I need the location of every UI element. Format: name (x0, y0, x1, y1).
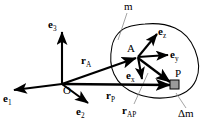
label-r-ap: rAP (122, 105, 136, 116)
vector-ey (138, 55, 168, 57)
leader-body-mass (118, 13, 127, 40)
leader-element-mass (176, 93, 186, 108)
body-outline (111, 24, 199, 98)
vector-r-p (62, 84, 170, 85)
label-e3: e3 (48, 19, 57, 30)
label-e1: e1 (3, 93, 12, 104)
label-element-mass: Δm (178, 108, 194, 119)
label-point-a: A (127, 43, 135, 54)
label-origin: O (63, 85, 71, 96)
label-point-p: P (175, 68, 181, 79)
label-r-a: rA (81, 55, 91, 66)
label-e2: e2 (76, 106, 85, 117)
label-ez: ez (158, 26, 166, 37)
vector-e1 (14, 84, 62, 90)
label-r-p: rP (106, 90, 115, 101)
vector-diagram: m O A P e1 e2 e3 ex ey ez rA rP rAP (0, 0, 213, 127)
label-body-mass: m (124, 1, 133, 12)
label-ey: ey (170, 49, 179, 60)
label-ex: ex (126, 70, 135, 81)
vector-ez (138, 34, 157, 57)
mass-element-marker (170, 80, 179, 89)
vector-r-a (62, 58, 136, 84)
